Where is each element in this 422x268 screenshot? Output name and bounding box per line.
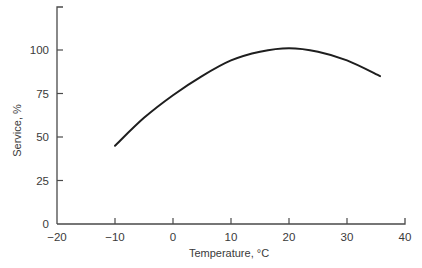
y-tick-label: 25 (36, 175, 49, 187)
axes (57, 7, 405, 224)
y-axis-label: Service, % (11, 104, 23, 157)
x-tick-label: 0 (170, 231, 176, 243)
x-tick-label: −20 (47, 231, 67, 243)
x-tick-label: 20 (283, 231, 296, 243)
series-group (115, 48, 380, 145)
y-tick-label: 0 (43, 218, 49, 230)
y-tick-label: 50 (36, 131, 49, 143)
chart: −20−10010203040 0255075100 Temperature, … (0, 0, 422, 268)
y-axis (57, 7, 63, 224)
y-ticks: 0255075100 (30, 44, 63, 230)
x-tick-label: −10 (105, 231, 125, 243)
x-tick-label: 30 (341, 231, 354, 243)
x-axis-label: Temperature, °C (189, 247, 269, 259)
x-tick-label: 10 (225, 231, 238, 243)
x-tick-label: 40 (399, 231, 412, 243)
x-ticks: −20−10010203040 (47, 218, 411, 243)
y-tick-label: 100 (30, 44, 49, 56)
y-tick-label: 75 (36, 88, 49, 100)
series-line-service (115, 48, 380, 145)
